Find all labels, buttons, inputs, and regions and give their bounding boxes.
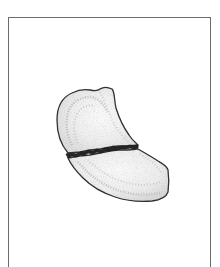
upper-fragment xyxy=(57,88,138,154)
lower-fragment xyxy=(68,149,169,201)
